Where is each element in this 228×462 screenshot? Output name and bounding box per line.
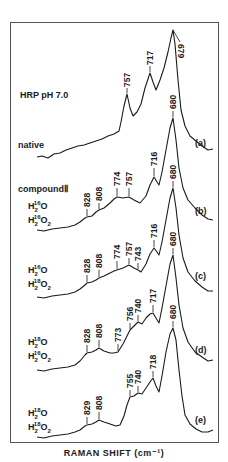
peak-label: 828 xyxy=(82,259,92,273)
sample-name-b: compoundⅡ xyxy=(18,184,68,194)
peak-label: 757 xyxy=(122,73,132,87)
peak-label: 679 xyxy=(176,44,186,58)
peak-label: 740 xyxy=(133,299,143,313)
peak-label: 680 xyxy=(168,165,178,179)
trace-e: 829 808 755 740 718 680 H218O H218O2 (e) xyxy=(28,305,213,438)
peak-label: 716 xyxy=(149,224,159,238)
x-axis-label: RAMAN SHIFT (cm⁻¹) xyxy=(64,448,165,458)
oxidant-label-e: H218O2 xyxy=(28,421,52,434)
sample-name-a: native xyxy=(18,140,44,150)
trace-b: 828 808 774 757 716 680 compoundⅡ H216O … xyxy=(18,95,213,231)
peak-label: 828 xyxy=(82,193,92,207)
trace-tag-b: (b) xyxy=(195,206,207,216)
solvent-label-e: H218O xyxy=(28,407,48,420)
peak-label: 743 xyxy=(133,247,143,261)
solvent-label-c: H216O xyxy=(28,264,48,277)
peak-label: 717 xyxy=(148,289,158,303)
chart-title: HRP pH 7.0 xyxy=(20,90,68,100)
trace-tag-a: (a) xyxy=(195,138,206,148)
solvent-label-d: H218O xyxy=(28,336,48,349)
trace-tag-c: (c) xyxy=(195,271,206,281)
peak-label: 808 xyxy=(94,187,104,201)
peak-label: 717 xyxy=(145,51,155,65)
peak-label: 773 xyxy=(113,328,123,342)
raman-spectra-figure: HRP pH 7.0 757 717 679 native (a) 828 80… xyxy=(0,0,228,462)
oxidant-label-d: H216O2 xyxy=(28,350,52,363)
peak-label: 680 xyxy=(168,305,178,319)
peak-label: 829 xyxy=(82,401,92,415)
peak-label: 774 xyxy=(112,172,122,186)
solvent-label-b: H216O xyxy=(28,200,48,213)
peak-label: 774 xyxy=(112,245,122,259)
oxidant-label-c: H218O2 xyxy=(28,278,52,291)
plot-frame xyxy=(11,23,219,443)
trace-tag-e: (e) xyxy=(195,415,206,425)
peak-label: 828 xyxy=(82,329,92,343)
peak-label: 808 xyxy=(94,396,104,410)
peak-label: 718 xyxy=(148,355,158,369)
trace-tag-d: (d) xyxy=(195,345,207,355)
peak-label: 740 xyxy=(133,370,143,384)
oxidant-label-b: H216O2 xyxy=(28,214,52,227)
peak-label: 716 xyxy=(149,152,159,166)
peak-label: 757 xyxy=(124,172,134,186)
peak-label: 808 xyxy=(94,324,104,338)
peak-label: 808 xyxy=(94,254,104,268)
peak-label: 680 xyxy=(168,95,178,109)
peak-label: 680 xyxy=(168,232,178,246)
